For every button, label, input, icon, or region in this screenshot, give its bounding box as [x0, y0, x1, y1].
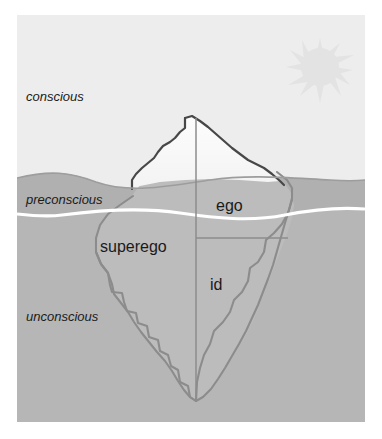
label-ego: ego — [216, 197, 243, 214]
iceberg-diagram: conscious preconscious unconscious ego s… — [0, 0, 382, 439]
label-id: id — [210, 276, 222, 293]
label-unconscious: unconscious — [26, 309, 99, 324]
plate: conscious preconscious unconscious ego s… — [17, 15, 365, 422]
label-preconscious: preconscious — [25, 192, 103, 207]
diagram-canvas: conscious preconscious unconscious ego s… — [0, 0, 382, 439]
label-conscious: conscious — [26, 89, 84, 104]
label-superego: superego — [100, 238, 167, 255]
